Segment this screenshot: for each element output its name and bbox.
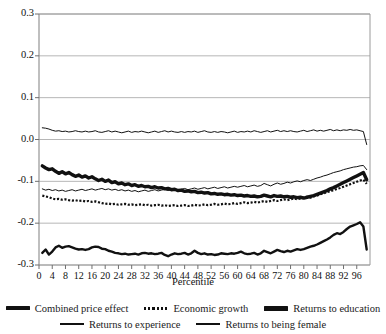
legend-line-swatch <box>60 323 84 324</box>
legend-item: Economic growth <box>144 303 248 314</box>
x-axis-title: Percentile <box>0 276 386 287</box>
legend-line-swatch <box>6 306 30 310</box>
legend-line-swatch <box>196 323 220 324</box>
y-axis-tick-label: -0.3 <box>0 259 34 269</box>
legend-label: Returns to experience <box>89 319 181 330</box>
chart-legend: Combined price effectEconomic growthRetu… <box>0 300 386 332</box>
y-axis-tick-label: 0.1 <box>0 92 34 102</box>
legend-label: Returns to being female <box>225 319 326 330</box>
legend-row: Combined price effectEconomic growthRetu… <box>0 300 386 316</box>
legend-line-swatch <box>144 307 168 310</box>
series-line <box>42 128 366 145</box>
chart-container: 0.30.20.10.0-0.1-0.2-0.3 048121620242832… <box>0 0 386 334</box>
series-line <box>42 166 366 198</box>
series-line <box>42 222 366 256</box>
y-axis-tick-label: 0.3 <box>0 8 34 18</box>
legend-line-swatch <box>264 306 288 311</box>
y-axis-tick-label: 0.2 <box>0 50 34 60</box>
legend-item: Combined price effect <box>6 303 129 314</box>
legend-row: Returns to experienceReturns to being fe… <box>0 316 386 332</box>
y-axis-tick-label: -0.1 <box>0 175 34 185</box>
legend-label: Returns to education <box>293 303 380 314</box>
legend-label: Combined price effect <box>35 303 129 314</box>
legend-item: Returns to being female <box>196 319 326 330</box>
legend-item: Returns to education <box>264 303 380 314</box>
y-axis-tick-label: 0.0 <box>0 134 34 144</box>
y-axis-tick-label: -0.2 <box>0 217 34 227</box>
legend-item: Returns to experience <box>60 319 181 330</box>
legend-label: Economic growth <box>173 303 248 314</box>
